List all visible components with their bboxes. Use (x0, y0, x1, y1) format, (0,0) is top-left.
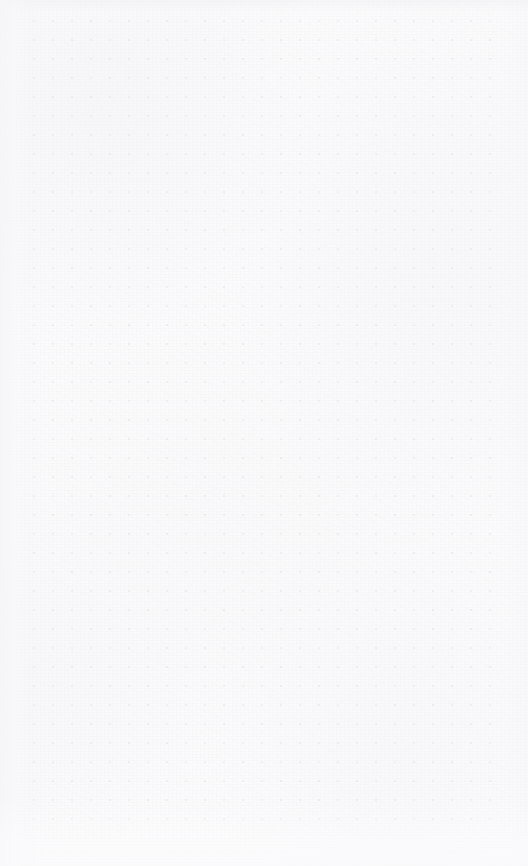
dot-grid-svg (0, 0, 528, 866)
dot-grid-overlay (0, 0, 528, 866)
dot-grid-page (0, 0, 528, 866)
